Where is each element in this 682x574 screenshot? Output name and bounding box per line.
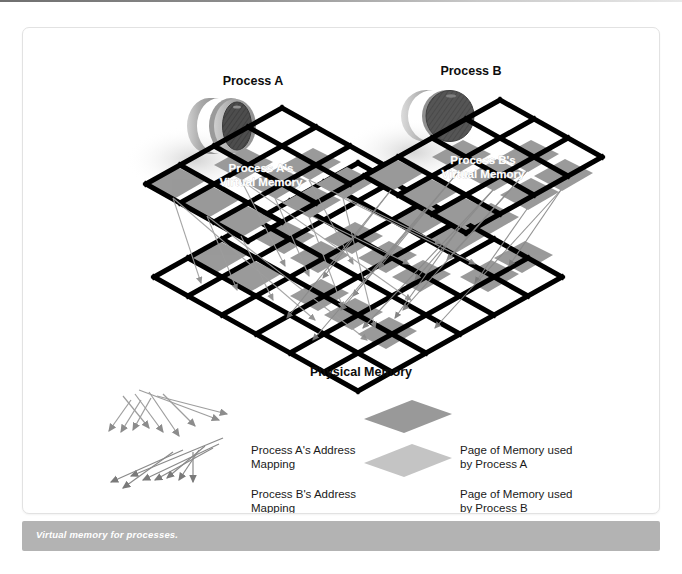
process-a-virtual-memory-label: Process A's Virtual Memory xyxy=(220,162,303,188)
figure-root: Process A's Virtual Memory Process B's V… xyxy=(0,0,682,574)
process-a-disc-icon xyxy=(187,98,256,154)
plane-shadows xyxy=(125,118,483,194)
svg-text:Process A's: Process A's xyxy=(229,162,294,174)
legend-process-a-arrows-glyph xyxy=(109,390,227,436)
legend-label-process-a-mapping: Process A's Address Mapping xyxy=(251,443,355,471)
physical-memory-plane xyxy=(154,163,562,391)
process-b-title: Process B xyxy=(411,64,531,78)
figure-caption-text: Virtual memory for processes. xyxy=(36,529,178,540)
process-a-mapping-arrows xyxy=(173,180,475,340)
process-a-title: Process A xyxy=(193,74,313,88)
process-b-disc-icon xyxy=(401,90,474,142)
physical-memory-title: Physical Memory xyxy=(261,365,461,379)
process-b-virtual-memory-label: Process B's Virtual Memory xyxy=(442,154,525,180)
figure-card: Process A's Virtual Memory Process B's V… xyxy=(22,27,660,514)
svg-text:Virtual Memory: Virtual Memory xyxy=(220,176,303,188)
figure-caption-bar: Virtual memory for processes. xyxy=(22,521,660,551)
legend-label-page-process-a: Page of Memory used by Process A xyxy=(460,443,573,471)
svg-text:Process B's: Process B's xyxy=(450,154,515,166)
legend-label-process-b-mapping: Process B's Address Mapping xyxy=(251,487,356,514)
process-a-virtual-memory-plane xyxy=(146,108,384,241)
process-b-virtual-memory-plane xyxy=(364,100,602,233)
process-b-mapping-arrows xyxy=(287,171,561,340)
virtual-memory-illustration: Process A's Virtual Memory Process B's V… xyxy=(23,28,659,513)
legend-process-b-arrows-glyph xyxy=(111,438,223,488)
top-divider-rule xyxy=(0,0,682,2)
legend-page-b-swatch xyxy=(364,444,452,477)
svg-text:Virtual Memory: Virtual Memory xyxy=(442,168,525,180)
legend-label-page-process-b: Page of Memory used by Process B xyxy=(460,487,573,514)
legend-page-a-swatch xyxy=(364,400,452,433)
